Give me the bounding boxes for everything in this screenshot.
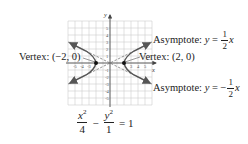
equation-minus: − [92, 117, 98, 129]
asymptote-positive-label: Asymptote: y = 12x [153, 30, 234, 51]
svg-text:-2: -2 [105, 75, 109, 80]
asymptote-equals: = [209, 82, 220, 93]
equation-rhs: = 1 [119, 117, 133, 129]
equation-term2: y2 1 [104, 110, 114, 135]
vertex-right-label: Vertex: (2, 0) [139, 52, 195, 63]
svg-text:-4: -4 [80, 64, 84, 69]
svg-text:4: 4 [137, 64, 140, 69]
fraction-numerator: 1 [221, 30, 228, 41]
term1-denominator: 4 [79, 123, 85, 135]
svg-text:-4: -4 [105, 89, 109, 94]
asymptote-negative-label: Asymptote: y = −12x [153, 78, 240, 99]
equation-term1: x2 4 [77, 110, 87, 135]
asymptote-fraction: 12 [227, 78, 234, 99]
term2-denominator: 1 [106, 123, 112, 135]
asymptote-sign: − [220, 82, 226, 93]
term2-exponent: 2 [110, 108, 114, 116]
fraction-denominator: 2 [222, 41, 227, 51]
svg-text:5: 5 [144, 64, 147, 69]
svg-text:2: 2 [106, 47, 108, 52]
asymptote-suffix: x [229, 34, 234, 45]
asymptote-equals: = [209, 34, 220, 45]
x-axis-label: x [151, 66, 155, 73]
asymptote-prefix: Asymptote: [153, 82, 205, 93]
hyperbola-equation: x2 4 − y2 1 = 1 [76, 110, 133, 135]
y-axis-label: y [103, 11, 107, 18]
svg-text:-1: -1 [105, 68, 109, 73]
fraction-denominator: 2 [228, 89, 233, 99]
svg-text:5: 5 [106, 26, 109, 31]
svg-text:4: 4 [106, 33, 109, 38]
svg-text:3: 3 [130, 64, 133, 69]
fraction-numerator: 1 [227, 78, 234, 89]
asymptote-prefix: Asymptote: [153, 34, 205, 45]
vertex-left-text: Vertex: (−2, 0) [19, 51, 81, 62]
vertex-left-label: Vertex: (−2, 0) [19, 52, 81, 63]
vertex-right-text: Vertex: (2, 0) [139, 51, 195, 62]
svg-text:-5: -5 [105, 96, 109, 101]
term2-numerator: y2 [104, 110, 114, 123]
svg-text:1: 1 [106, 54, 108, 59]
asymptote-fraction: 12 [221, 30, 228, 51]
svg-text:3: 3 [106, 40, 109, 45]
svg-text:-3: -3 [87, 64, 91, 69]
svg-text:-5: -5 [73, 64, 77, 69]
asymptote-suffix: x [235, 82, 240, 93]
term1-exponent: 2 [83, 108, 87, 116]
svg-text:-3: -3 [105, 82, 109, 87]
term1-numerator: x2 [77, 110, 87, 123]
